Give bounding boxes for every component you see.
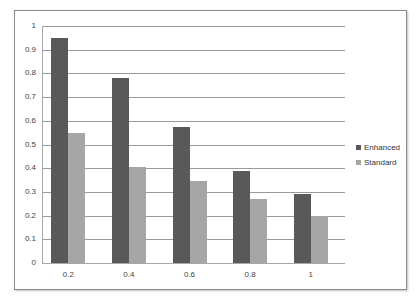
- legend-label: Enhanced: [364, 143, 400, 152]
- gridline: [42, 97, 345, 98]
- x-tick-label: 0.2: [48, 270, 88, 279]
- bar-enhanced-1: [294, 194, 311, 263]
- y-tick-label: 0.1: [12, 234, 36, 243]
- y-tick-label: 0.2: [12, 211, 36, 220]
- plot-area: [42, 26, 345, 263]
- legend: EnhancedStandard: [356, 140, 400, 170]
- bar-enhanced-0.6: [173, 127, 190, 263]
- bar-standard-0.2: [68, 133, 85, 263]
- y-tick-label: 0.3: [12, 187, 36, 196]
- bar-standard-0.6: [190, 181, 207, 263]
- y-tick-label: 0.8: [12, 68, 36, 77]
- y-tick-label: 0.9: [12, 45, 36, 54]
- gridline: [42, 26, 345, 27]
- bar-standard-1: [311, 216, 328, 263]
- legend-item-standard: Standard: [356, 155, 400, 170]
- bar-enhanced-0.2: [51, 38, 68, 263]
- legend-swatch-icon: [356, 145, 361, 150]
- y-tick-label: 0: [12, 258, 36, 267]
- gridline: [42, 168, 345, 169]
- legend-swatch-icon: [356, 160, 361, 165]
- y-tick-label: 0.4: [12, 163, 36, 172]
- legend-label: Standard: [364, 158, 396, 167]
- x-tick-label: 0.4: [109, 270, 149, 279]
- gridline: [42, 73, 345, 74]
- gridline: [42, 145, 345, 146]
- y-tick-label: 0.7: [12, 92, 36, 101]
- y-axis-line: [42, 26, 43, 264]
- bar-standard-0.8: [250, 199, 267, 263]
- y-tick-label: 0.5: [12, 140, 36, 149]
- x-tick-label: 0.8: [230, 270, 270, 279]
- x-axis-line: [42, 263, 345, 264]
- x-tick-label: 1: [291, 270, 331, 279]
- bar-enhanced-0.4: [112, 78, 129, 263]
- bar-standard-0.4: [129, 167, 146, 263]
- y-tick-label: 0.6: [12, 116, 36, 125]
- y-tick-label: 1: [12, 21, 36, 30]
- gridline: [42, 121, 345, 122]
- x-tick-label: 0.6: [170, 270, 210, 279]
- bar-enhanced-0.8: [233, 171, 250, 263]
- gridline: [42, 50, 345, 51]
- legend-item-enhanced: Enhanced: [356, 140, 400, 155]
